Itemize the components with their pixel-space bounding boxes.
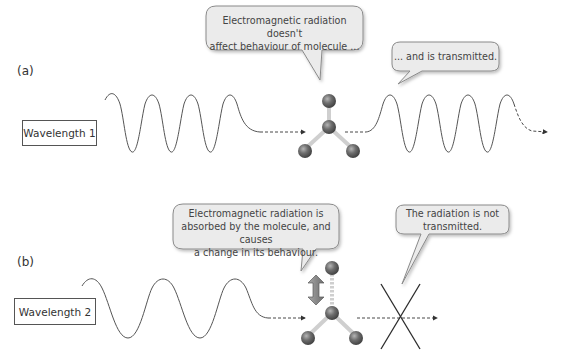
cross-icon — [381, 284, 420, 349]
bubble-a2-text: ... and is transmitted. — [392, 50, 499, 63]
wavelength-2-box: Wavelength 2 — [14, 298, 96, 325]
bubble-b1-line-1: Electromagnetic radiation is — [173, 207, 339, 220]
bubble-b1-line-3: a change in its behaviour. — [173, 246, 339, 259]
molecule-excited-icon — [301, 261, 363, 345]
panel-label-a: (a) — [17, 64, 34, 78]
wave-incoming-b — [82, 279, 268, 338]
bubble-a1-text: Electromagnetic radiation doesn't affect… — [206, 14, 363, 53]
bubble-b2-line-1: The radiation is not — [396, 207, 509, 220]
bubble-b2-text: The radiation is not transmitted. — [396, 207, 509, 233]
wave-transmitted-a — [366, 95, 514, 152]
bubble-b1-line-2: absorbed by the molecule, and causes — [173, 220, 339, 246]
dashed-arrow-out-a — [514, 104, 547, 132]
speech-bubble-a2 — [392, 42, 499, 84]
panel-label-b: (b) — [17, 255, 34, 269]
bubble-a1-line-2: affect behaviour of molecule ... — [206, 40, 363, 53]
wavelength-1-box: Wavelength 1 — [22, 120, 97, 146]
bubble-a1-line-1: Electromagnetic radiation doesn't — [206, 14, 363, 40]
bubble-b2-line-2: transmitted. — [396, 220, 509, 233]
bubble-b1-text: Electromagnetic radiation is absorbed by… — [173, 207, 339, 259]
bubble-a2-line-1: ... and is transmitted. — [392, 50, 499, 63]
molecule-icon — [298, 94, 360, 158]
double-arrow-icon — [308, 275, 324, 305]
wave-incoming-a — [105, 94, 260, 152]
